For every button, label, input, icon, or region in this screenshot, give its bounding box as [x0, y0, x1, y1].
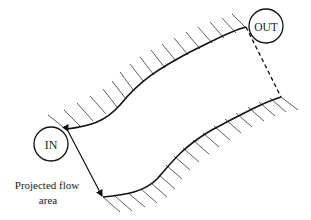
projected-area-label-line2: area	[39, 194, 57, 206]
projected-area-label-line1: Projected flow	[15, 179, 80, 191]
inlet-label: IN	[45, 138, 58, 152]
inlet-marker: IN	[34, 127, 68, 161]
upper-wall-hatching	[48, 14, 246, 130]
upper-wall	[67, 27, 246, 129]
outlet-label: OUT	[254, 21, 278, 33]
flow-channel-diagram: IN OUT Projected flow area	[0, 0, 311, 220]
lower-wall-hatching	[103, 97, 298, 212]
outlet-marker: OUT	[249, 9, 283, 43]
